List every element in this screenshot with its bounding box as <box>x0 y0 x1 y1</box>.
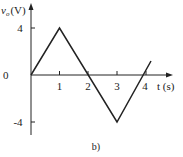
y-axis-arrow-icon <box>29 3 34 10</box>
waveform-chart: vo(V) 4 0 -4 1 2 3 4 t (s) b) <box>0 0 183 157</box>
figure-caption: b) <box>92 141 100 153</box>
x-axis-label: t (s) <box>157 80 175 93</box>
x-tick-label-4: 4 <box>142 80 148 92</box>
y-tick-label-4: 4 <box>17 22 23 34</box>
x-tick-label-2: 2 <box>85 80 91 92</box>
y-axis-label: vo(V) <box>1 4 26 18</box>
y-tick-label-0: 0 <box>3 69 9 81</box>
x-axis-arrow-icon <box>166 73 173 78</box>
x-tick-label-1: 1 <box>57 80 63 92</box>
x-tick-label-3: 3 <box>114 80 120 92</box>
y-tick-label-neg4: -4 <box>13 116 23 128</box>
